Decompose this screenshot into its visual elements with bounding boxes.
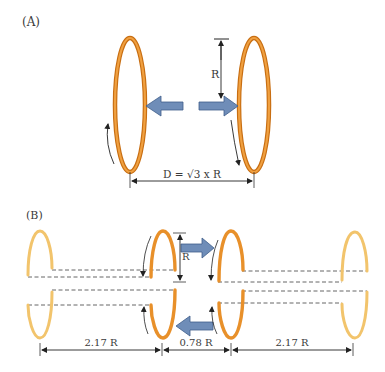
coil-outer-right [342,232,367,338]
radius-label: R [211,68,220,81]
coil-left [115,38,145,172]
coil-inner-right [219,231,243,338]
distance-label: D = √3 x R [163,168,222,180]
radius-label-b: R [182,251,190,262]
coil-right [239,38,269,172]
force-arrow-left [146,96,183,116]
panel-a-label: (A) [22,15,40,29]
coil-outer-left [28,231,52,338]
force-arrow-left-b [176,316,213,336]
helmholtz-coil-diagram: (A) R D = √3 x R (B) [0,0,385,372]
current-arrow-up [107,124,114,164]
panel-b-label: (B) [26,209,43,222]
coil-inner-left [151,231,175,338]
coil-wire-dashes [28,270,367,305]
current-arrow-b3 [144,307,148,334]
force-arrow-right [199,96,238,116]
dimension-label-right: 2.17 R [276,337,309,348]
dimension-label-left: 2.17 R [85,337,118,348]
dimension-label-center: 0.78 R [180,337,213,348]
